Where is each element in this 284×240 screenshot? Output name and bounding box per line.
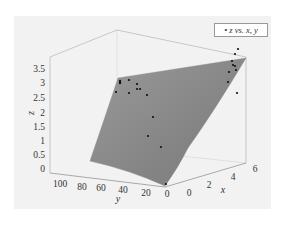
y-tick: 60 bbox=[96, 183, 106, 193]
x-tick: 6 bbox=[253, 164, 258, 174]
z-tick: 1 bbox=[40, 136, 45, 146]
y-tick: 20 bbox=[141, 188, 151, 198]
x-tick: 0 bbox=[187, 188, 192, 198]
z-tick: 0 bbox=[40, 164, 45, 174]
fitted-surface bbox=[90, 58, 246, 186]
y-tick: 80 bbox=[77, 182, 87, 192]
z-tick: 1.5 bbox=[33, 122, 45, 132]
z-axis-ticks: 3.5 3 2.5 2 1.5 1 0.5 0 bbox=[33, 64, 45, 174]
z-tick: 2 bbox=[40, 108, 45, 118]
x-tick: 4 bbox=[231, 172, 236, 182]
y-axis-label: y bbox=[115, 193, 121, 204]
legend: • z vs. x, y bbox=[214, 23, 268, 37]
x-axis-label: x bbox=[220, 184, 226, 195]
z-tick: 0.5 bbox=[33, 150, 45, 160]
z-tick: 3.5 bbox=[33, 64, 45, 74]
x-tick: 2 bbox=[207, 180, 212, 190]
y-axis-ticks: 100 80 60 40 20 0 bbox=[53, 179, 170, 199]
y-tick: 0 bbox=[165, 189, 170, 199]
y-tick: 100 bbox=[53, 179, 68, 189]
z-tick: 3 bbox=[40, 78, 45, 88]
z-tick: 2.5 bbox=[33, 93, 45, 103]
z-axis-label: z bbox=[25, 111, 36, 116]
legend-entry: z vs. x, y bbox=[229, 25, 258, 35]
